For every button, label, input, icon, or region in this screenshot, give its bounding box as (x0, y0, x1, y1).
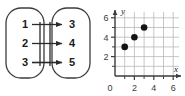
mapping-diagram: 1 2 3 3 4 5 (0, 0, 95, 96)
data-point-3-5 (141, 24, 148, 31)
y-tick-label-6: 6 (103, 13, 108, 23)
x-tick-label-0: 0 (107, 83, 112, 93)
x-axis-label: x (173, 64, 178, 74)
data-point-2-4 (131, 34, 138, 41)
data-point-1-3 (121, 44, 128, 51)
coordinate-plot: 0 2 4 6 2 4 6 y x (95, 0, 185, 96)
plot-svg: 0 2 4 6 2 4 6 y x (95, 0, 185, 96)
x-tick-label-4: 4 (151, 83, 156, 93)
y-tick-label-4: 4 (103, 33, 108, 43)
x-tick-label-6: 6 (171, 83, 176, 93)
mapping-svg: 1 2 3 3 4 5 (0, 0, 95, 96)
x-tick-label-2: 2 (132, 83, 137, 93)
domain-element-2: 2 (22, 37, 28, 49)
figure-root: 1 2 3 3 4 5 (0, 0, 185, 96)
range-element-5: 5 (69, 56, 75, 68)
domain-element-3: 3 (22, 56, 28, 68)
domain-element-1: 1 (22, 18, 28, 30)
range-element-4: 4 (69, 37, 76, 49)
range-element-3: 3 (69, 18, 75, 30)
y-tick-label-2: 2 (103, 52, 108, 62)
y-axis-label: y (120, 6, 125, 16)
